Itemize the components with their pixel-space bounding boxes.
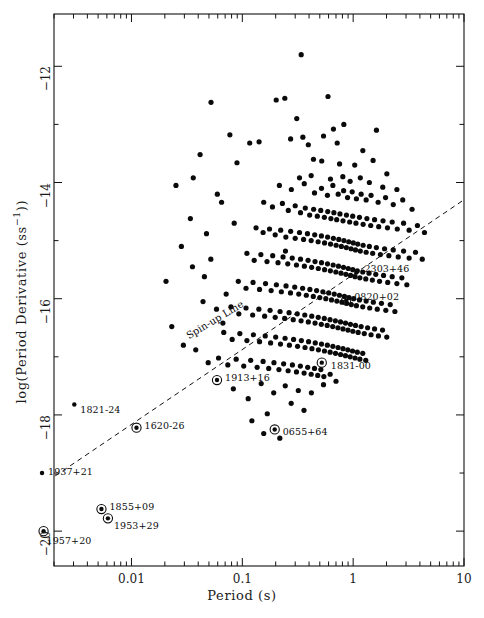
pulsar-label: 1620-26 [144, 420, 184, 431]
x-axis-title: Period (s) [0, 588, 484, 603]
pulsar-label: 1957+20 [47, 535, 92, 546]
x-tick-label: 10 [434, 572, 484, 586]
y-tick-label: −18 [39, 415, 53, 473]
pulsar-label: 0655+64 [283, 426, 328, 437]
figure-root: Period (s) log(Period Derivative (ss−1))… [0, 0, 484, 618]
pulsar-label: 0820+02 [354, 291, 399, 302]
y-tick-label: −16 [39, 299, 53, 357]
pulsar-label: 1953+29 [114, 520, 159, 531]
x-tick-label: 0.1 [212, 572, 272, 586]
y-tick-label: −14 [39, 183, 53, 241]
x-tick-label: 0.01 [101, 572, 161, 586]
pulsar-label: 1821-24 [80, 404, 120, 415]
pulsar-label: 1855+09 [109, 501, 154, 512]
y-axis-title: log(Period Derivative (ss−1)) [11, 142, 28, 462]
spin-up-line [55, 201, 462, 476]
y-axis-title-exponent: −1 [11, 211, 22, 226]
y-axis-title-main: log(Period Derivative (ss [14, 226, 29, 403]
x-tick-label: 1 [323, 572, 383, 586]
pulsar-label: 1937+21 [48, 466, 93, 477]
y-axis-title-tail: )) [14, 200, 29, 211]
pulsar-label: 1913+16 [225, 372, 270, 383]
pulsar-label: 1831-00 [331, 360, 371, 371]
pulsar-label: 2303+46 [364, 263, 409, 274]
y-tick-label: −12 [39, 66, 53, 124]
